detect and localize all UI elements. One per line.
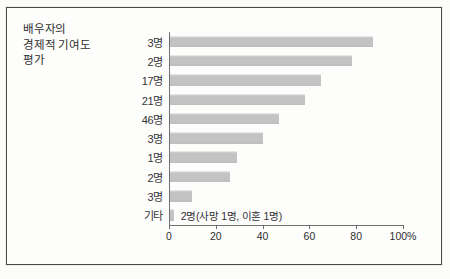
- chart-screenshot: 배우자의 경제적 기여도 평가 3명2명17명21명46명3명1명2명3명기타2…: [0, 0, 450, 279]
- x-axis-tick: [216, 225, 217, 229]
- chart-title-line-3: 평가: [23, 53, 141, 69]
- bar-cell: [169, 90, 425, 109]
- bar-row: 17명: [125, 71, 425, 90]
- bar: [169, 171, 230, 182]
- category-label: 21명: [125, 92, 169, 108]
- bar-row: 3명: [125, 186, 425, 205]
- chart-title-line-1: 배우자의: [23, 22, 141, 38]
- bar-row: 21명: [125, 90, 425, 109]
- x-axis-tick-label: 40: [257, 230, 269, 242]
- bar-row: 1명: [125, 148, 425, 167]
- bar: [169, 152, 237, 163]
- category-label: 17명: [125, 72, 169, 88]
- chart-title-line-2: 경제적 기여도: [23, 38, 141, 54]
- category-label: 3명: [125, 34, 169, 50]
- bar-cell: [169, 32, 425, 51]
- bar: [169, 133, 263, 144]
- chart-title: 배우자의 경제적 기여도 평가: [23, 22, 141, 69]
- x-axis-tick-label: 100%: [390, 230, 417, 242]
- bar-row: 2명: [125, 167, 425, 186]
- x-axis-line: [169, 225, 403, 226]
- x-axis-tick: [356, 225, 357, 229]
- category-label: 2명: [125, 169, 169, 185]
- bar-cell: [169, 148, 425, 167]
- x-axis-tick-label: 20: [210, 230, 222, 242]
- chart-frame: 배우자의 경제적 기여도 평가 3명2명17명21명46명3명1명2명3명기타2…: [6, 7, 442, 265]
- y-axis-line: [169, 32, 170, 225]
- bar-cell: [169, 128, 425, 147]
- x-axis-tick: [403, 225, 404, 229]
- bar: [169, 94, 305, 105]
- x-axis-tick-label: 0: [166, 230, 172, 242]
- bar-cell: 2명(사망 1명, 이혼 1명): [169, 206, 425, 225]
- bar: [169, 56, 352, 67]
- bar-cell: [169, 167, 425, 186]
- category-label: 기타: [125, 207, 169, 223]
- category-label: 3명: [125, 188, 169, 204]
- x-axis-tick: [169, 225, 170, 229]
- bar-cell: [169, 51, 425, 70]
- x-axis-tick-label: 80: [350, 230, 362, 242]
- category-label: 1명: [125, 149, 169, 165]
- bar-cell: [169, 109, 425, 128]
- bar-row: 3명: [125, 128, 425, 147]
- bar-annotation: 2명(사망 1명, 이혼 1명): [181, 208, 282, 223]
- x-axis-tick: [309, 225, 310, 229]
- bar-row: 기타2명(사망 1명, 이혼 1명): [125, 206, 425, 225]
- bar: [169, 75, 321, 86]
- bar: [169, 114, 279, 125]
- category-label: 46명: [125, 111, 169, 127]
- x-axis-tick: [263, 225, 264, 229]
- bar-rows: 3명2명17명21명46명3명1명2명3명기타2명(사망 1명, 이혼 1명): [125, 32, 425, 225]
- category-label: 3명: [125, 130, 169, 146]
- category-label: 2명: [125, 53, 169, 69]
- bar: [169, 191, 192, 202]
- bar-row: 2명: [125, 51, 425, 70]
- bar: [169, 36, 373, 47]
- plot-area: 3명2명17명21명46명3명1명2명3명기타2명(사망 1명, 이혼 1명) …: [125, 32, 425, 262]
- x-axis-tick-label: 60: [304, 230, 316, 242]
- bar-row: 46명: [125, 109, 425, 128]
- bar-row: 3명: [125, 32, 425, 51]
- bar-cell: [169, 71, 425, 90]
- bar-cell: [169, 186, 425, 205]
